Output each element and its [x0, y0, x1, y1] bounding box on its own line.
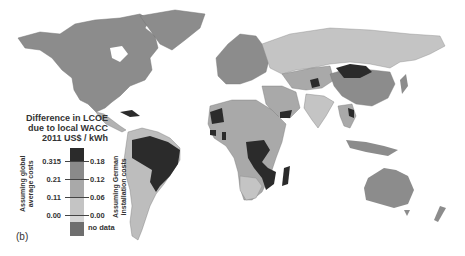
legend-left-axis-line-2: average costs: [27, 156, 35, 212]
legend-title: Difference in LCOE due to local WACC 201…: [16, 113, 108, 143]
legend-bin-2: [70, 161, 84, 179]
legend-bin-1: [70, 148, 84, 161]
region-india: [304, 94, 334, 128]
legend-title-line-3: 2011 US$ / kWh: [16, 133, 108, 143]
legend-tick: [65, 215, 89, 216]
legend-right-value: 0.00: [90, 211, 105, 220]
legend-left-value: 0.315: [37, 157, 61, 166]
legend-title-line-1: Difference in LCOE: [16, 113, 108, 123]
legend-left-axis-line-1: Assuming global: [19, 156, 27, 212]
legend-right-axis-line-2: installation costs: [120, 156, 128, 218]
legend-left-value: 0.00: [37, 211, 61, 220]
legend-right-axis-label: Assuming German installation costs: [112, 156, 128, 218]
legend-left-axis-label: Assuming global average costs: [19, 156, 35, 212]
region-indonesia: [346, 140, 398, 156]
region-japan: [400, 74, 408, 94]
legend-no-data-swatch: [70, 222, 84, 236]
region-europe: [216, 34, 270, 84]
region-new-zealand: [434, 206, 446, 222]
legend-right-value: 0.06: [90, 193, 105, 202]
panel-label: (b): [16, 231, 28, 242]
legend-left-value: 0.21: [37, 175, 61, 184]
region-tasmania: [404, 210, 410, 216]
legend-tick: [65, 179, 89, 180]
legend-title-line-2: due to local WACC: [16, 123, 108, 133]
legend-bin-3: [70, 179, 84, 197]
region-cuba: [120, 110, 140, 117]
region-australia: [364, 168, 414, 208]
region-guinea: [210, 130, 216, 136]
region-madagascar: [282, 166, 290, 186]
region-ghana: [222, 132, 226, 140]
legend-right-axis-line-1: Assuming German: [112, 156, 120, 218]
legend-left-value: 0.11: [37, 193, 61, 202]
legend-color-bar: [70, 148, 84, 228]
legend-bin-4: [70, 197, 84, 215]
legend-right-value: 0.12: [90, 175, 105, 184]
legend-right-value: 0.18: [90, 157, 105, 166]
legend-no-data-label: no data: [88, 223, 115, 232]
legend-tick: [65, 161, 89, 162]
region-north-america: [18, 14, 158, 112]
legend-tick: [65, 197, 89, 198]
